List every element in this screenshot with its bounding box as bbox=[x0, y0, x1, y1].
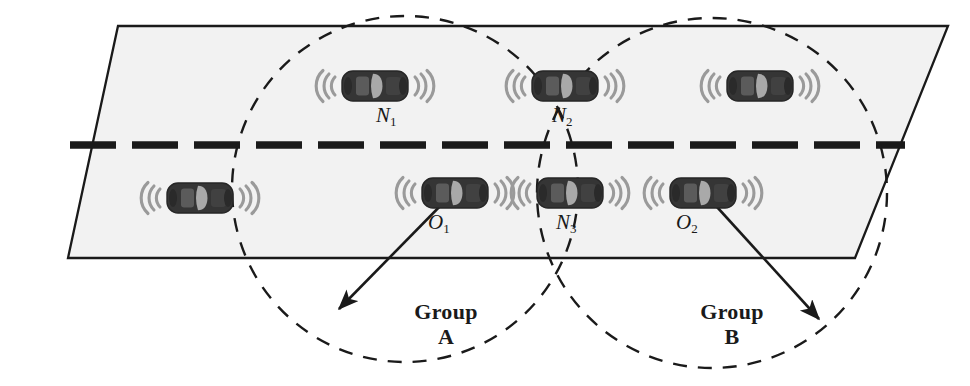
group-a-label-line1: Group bbox=[398, 300, 494, 325]
vehicle-label-o2: O2 bbox=[676, 210, 698, 237]
group-b-label-line1: Group bbox=[684, 300, 780, 325]
group-b-label: Group B bbox=[684, 300, 780, 349]
vehicle-label-n1: N1 bbox=[376, 103, 397, 130]
vehicle-label-o1: O1 bbox=[428, 210, 450, 237]
group-a-label: Group A bbox=[398, 300, 494, 349]
vanet-diagram-canvas: N1 N2 O1 N3 O2 Group A Group B bbox=[0, 0, 970, 386]
group-b-label-line2: B bbox=[684, 325, 780, 350]
group-a-label-line2: A bbox=[398, 325, 494, 350]
vehicle-label-n3: N3 bbox=[556, 210, 577, 237]
vehicle-label-n2: N2 bbox=[552, 103, 573, 130]
